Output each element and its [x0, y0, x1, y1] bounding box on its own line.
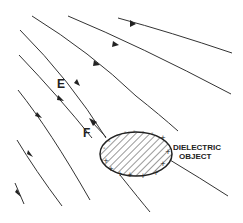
dielectric-object: - - - - - - - + + + + + + + + + [100, 127, 172, 180]
svg-text:+: + [153, 169, 159, 177]
field-line-1 [118, 18, 232, 53]
svg-text:+: + [103, 157, 109, 165]
field-line-exit-2 [170, 160, 228, 196]
field-line-2 [68, 16, 231, 94]
force-arrow-icon [89, 118, 97, 126]
force-label-f: F [83, 126, 90, 140]
svg-text:+: + [165, 148, 171, 156]
arrow-icon [130, 20, 136, 27]
svg-text:+: + [160, 134, 166, 142]
field-line-exit-1 [120, 175, 150, 212]
object-label-line2: OBJECT [179, 152, 212, 161]
field-line-3 [32, 16, 178, 131]
field-line-6 [18, 90, 90, 200]
object-label-line1: DIELECTRIC [173, 143, 221, 152]
field-lines [15, 16, 232, 212]
force-arrow [89, 118, 106, 137]
arrow-icon [27, 150, 33, 157]
svg-text:+: + [140, 172, 146, 180]
arrow-icon [57, 95, 64, 101]
field-line-7 [17, 140, 62, 206]
dielectric-field-diagram: - - - - - - - + + + + + + + + + E F DIEL… [0, 0, 243, 223]
svg-text:+: + [160, 160, 166, 168]
svg-text:+: + [127, 171, 133, 179]
field-line-8 [15, 183, 24, 204]
field-line-5 [19, 55, 92, 138]
svg-text:+: + [117, 170, 123, 178]
field-label-e: E [57, 77, 65, 91]
arrow-icon [74, 79, 80, 86]
arrow-icon [112, 41, 119, 47]
svg-text:+: + [108, 165, 114, 173]
